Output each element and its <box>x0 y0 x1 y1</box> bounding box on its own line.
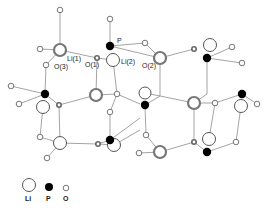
legend-phosphorus-swatch <box>45 183 53 191</box>
lithium-atom <box>90 89 102 101</box>
lithium-atom <box>37 101 50 114</box>
label-o3: O(3) <box>54 63 68 71</box>
lithium-atom-li2 <box>107 54 120 67</box>
oxygen-atom <box>57 103 61 107</box>
oxygen-atom <box>107 16 113 22</box>
oxygen-atom <box>229 44 235 50</box>
legend-oxygen-swatch <box>63 185 69 191</box>
phosphorus-atom <box>41 90 49 98</box>
label-p: P <box>117 37 122 44</box>
oxygen-atom <box>143 132 149 138</box>
oxygen-atom <box>254 101 260 107</box>
lithium-atom-li1 <box>54 44 66 56</box>
label-li2: Li(2) <box>121 58 135 66</box>
bonds <box>11 10 257 158</box>
oxygen-atom <box>233 139 239 145</box>
phosphorus-atom <box>203 148 211 156</box>
oxygen-atom <box>37 46 43 52</box>
oxygen-atom <box>57 7 63 13</box>
label-o2: O(2) <box>142 62 156 70</box>
oxygen-atom <box>142 40 148 46</box>
lithium-atom <box>204 39 217 52</box>
label-o1: O(1) <box>85 61 99 69</box>
legend-label-li: Li <box>25 195 31 202</box>
oxygen-atom <box>192 47 196 51</box>
crystal-structure-diagram: Li(1) O(3) O(1) P Li(2) O(2) Li P O <box>0 0 270 214</box>
lithium-atom <box>54 137 67 150</box>
oxygen-atom-o3 <box>43 62 49 68</box>
phosphorus-atom <box>203 54 211 62</box>
oxygen-atom <box>107 109 113 115</box>
oxygen-atom <box>37 134 43 140</box>
lithium-atom <box>188 97 200 109</box>
oxygen-atom <box>8 83 14 89</box>
oxygen-atom <box>114 91 120 97</box>
phosphorus-atom <box>238 90 246 98</box>
legend: Li P O <box>23 179 70 203</box>
phosphorus-atom <box>106 136 114 144</box>
oxygen-atom <box>96 142 100 146</box>
oxygen-atom <box>212 100 218 106</box>
lithium-atom <box>154 146 166 158</box>
phosphorus-atom <box>141 101 149 109</box>
atom-labels: Li(1) O(3) O(1) P Li(2) O(2) <box>54 37 156 71</box>
legend-label-p: P <box>46 195 51 202</box>
lithium-atom <box>235 100 248 113</box>
lithium-atom <box>203 133 216 146</box>
legend-lithium-swatch <box>23 179 36 192</box>
legend-label-o: O <box>63 195 69 202</box>
atoms <box>8 7 260 161</box>
phosphorus-atom <box>106 42 114 50</box>
oxygen-atom <box>239 60 245 66</box>
oxygen-atom <box>192 140 196 144</box>
lithium-atom <box>139 87 151 99</box>
label-li1: Li(1) <box>67 55 81 63</box>
oxygen-atom <box>136 150 142 156</box>
oxygen-atom-o1 <box>95 56 99 60</box>
oxygen-atom <box>16 101 22 107</box>
oxygen-atom <box>44 155 50 161</box>
